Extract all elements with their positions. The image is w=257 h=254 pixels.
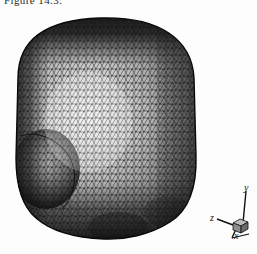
axis-label-y: y [244, 183, 248, 193]
figure-root: Figure 14.3: [0, 0, 257, 254]
mesh-wireframe-top-dense [0, 6, 215, 40]
axis-line-y [243, 191, 246, 223]
mesh-specular-highlight [44, 72, 132, 172]
mesh-svg-canvas [0, 6, 215, 246]
axis-label-z: z [210, 213, 214, 223]
axis-line-z [217, 219, 233, 225]
mesh-object [0, 6, 215, 246]
axis-triad: y z x [205, 183, 257, 245]
axis-label-x: x [234, 231, 238, 241]
